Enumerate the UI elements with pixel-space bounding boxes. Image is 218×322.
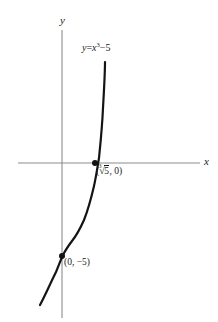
point-label-y-intercept: (0, −5) <box>64 258 90 268</box>
cubic-curve <box>40 62 105 305</box>
coordinate-suffix: , 0) <box>109 166 122 176</box>
point-label-x-intercept: (3√5, 0) <box>96 166 122 177</box>
equation-constant: −5 <box>100 42 111 53</box>
curve-equation-label: y=x3−5 <box>82 43 110 53</box>
radical-index: 3 <box>99 164 102 170</box>
cube-root-icon: 3√ <box>99 166 105 177</box>
x-axis-label: x <box>204 156 209 167</box>
y-axis-label: y <box>60 15 65 26</box>
graph-figure: y x y=x3−5 (3√5, 0) (0, −5) <box>0 0 218 322</box>
